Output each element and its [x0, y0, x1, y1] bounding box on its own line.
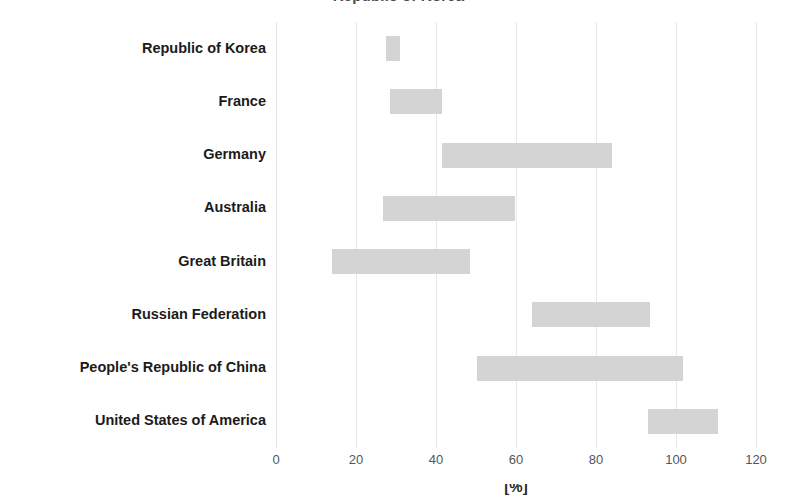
gridline-20: [356, 22, 357, 448]
category-label: Russian Federation: [0, 306, 266, 323]
category-label: Republic of Korea: [0, 40, 266, 57]
bar-range: [390, 89, 442, 114]
bar-range: [532, 302, 650, 327]
chart-title: Republic of Korea: [0, 0, 797, 4]
y-axis-category-labels: Republic of KoreaFranceGermanyAustraliaG…: [0, 22, 266, 448]
gridline-120: [756, 22, 757, 448]
x-tick-label: 80: [589, 452, 603, 467]
gridline-100: [676, 22, 677, 448]
x-tick-label: 120: [745, 452, 767, 467]
bar-range: [442, 143, 612, 168]
gridline-40: [436, 22, 437, 448]
category-label: Australia: [0, 199, 266, 216]
category-label: France: [0, 93, 266, 110]
category-label: People's Republic of China: [0, 359, 266, 376]
x-axis-label-text: [%]: [504, 484, 527, 495]
bar-range: [383, 196, 515, 221]
category-label: Great Britain: [0, 253, 266, 270]
category-label: United States of America: [0, 412, 266, 429]
bar-range: [332, 249, 470, 274]
x-tick-label: 20: [349, 452, 363, 467]
bar-range: [386, 36, 400, 61]
x-tick-label: 100: [665, 452, 687, 467]
category-label: Germany: [0, 146, 266, 163]
bar-range: [477, 356, 683, 381]
x-axis-label: [%]: [276, 484, 756, 501]
x-tick-label: 60: [509, 452, 523, 467]
gridline-80: [596, 22, 597, 448]
x-axis-tick-labels: 020406080100120: [276, 452, 756, 472]
bar-range: [648, 409, 718, 434]
plot-area: [276, 22, 756, 448]
x-tick-label: 0: [272, 452, 279, 467]
chart-figure: Republic of Korea Republic of KoreaFranc…: [0, 0, 797, 501]
gridline-0: [276, 22, 277, 448]
x-tick-label: 40: [429, 452, 443, 467]
gridline-60: [516, 22, 517, 448]
